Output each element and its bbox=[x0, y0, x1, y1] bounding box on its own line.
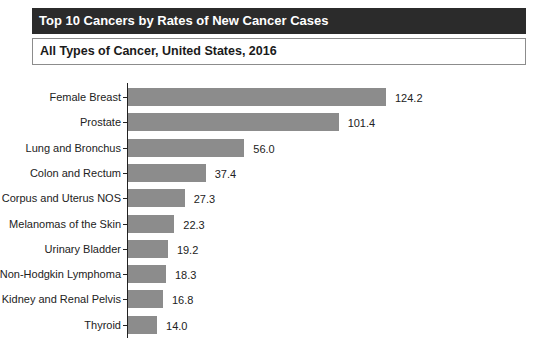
value-label: 27.3 bbox=[194, 190, 215, 208]
axis-tick bbox=[123, 198, 127, 199]
value-label: 19.2 bbox=[177, 241, 198, 259]
axis-tick bbox=[123, 122, 127, 123]
bar-row: Melanomas of the Skin22.3 bbox=[0, 215, 536, 233]
bar bbox=[128, 316, 157, 334]
axis-tick bbox=[123, 224, 127, 225]
category-label: Thyroid bbox=[84, 316, 121, 334]
value-label: 56.0 bbox=[253, 140, 274, 158]
bar-chart: Female Breast124.2Prostate101.4Lung and … bbox=[0, 0, 536, 339]
value-label: 16.8 bbox=[172, 291, 193, 309]
bar bbox=[128, 240, 168, 258]
value-label: 37.4 bbox=[215, 165, 236, 183]
axis-tick bbox=[123, 274, 127, 275]
bar-row: Non-Hodgkin Lymphoma18.3 bbox=[0, 265, 536, 283]
bar-row: Thyroid14.0 bbox=[0, 316, 536, 334]
category-label: Corpus and Uterus NOS bbox=[2, 189, 121, 207]
value-label: 22.3 bbox=[183, 216, 204, 234]
bar bbox=[128, 215, 174, 233]
axis-tick bbox=[123, 97, 127, 98]
bar-row: Kidney and Renal Pelvis16.8 bbox=[0, 290, 536, 308]
bar-row: Corpus and Uterus NOS27.3 bbox=[0, 189, 536, 207]
bar-row: Prostate101.4 bbox=[0, 113, 536, 131]
bar-row: Lung and Bronchus56.0 bbox=[0, 139, 536, 157]
category-label: Female Breast bbox=[49, 88, 121, 106]
category-label: Kidney and Renal Pelvis bbox=[2, 290, 121, 308]
bar bbox=[128, 113, 339, 131]
category-label: Non-Hodgkin Lymphoma bbox=[0, 265, 121, 283]
category-label: Colon and Rectum bbox=[30, 164, 121, 182]
category-label: Lung and Bronchus bbox=[26, 139, 121, 157]
bar-row: Female Breast124.2 bbox=[0, 88, 536, 106]
axis-tick bbox=[123, 299, 127, 300]
bar-row: Urinary Bladder19.2 bbox=[0, 240, 536, 258]
bar bbox=[128, 290, 163, 308]
axis-tick bbox=[123, 249, 127, 250]
axis-tick bbox=[123, 173, 127, 174]
axis-tick bbox=[123, 325, 127, 326]
value-label: 18.3 bbox=[175, 266, 196, 284]
bar bbox=[128, 164, 206, 182]
axis-tick bbox=[123, 148, 127, 149]
bar bbox=[128, 265, 166, 283]
value-label: 14.0 bbox=[166, 317, 187, 335]
bar bbox=[128, 139, 244, 157]
bar bbox=[128, 88, 386, 106]
bar bbox=[128, 189, 185, 207]
value-label: 124.2 bbox=[395, 89, 423, 107]
value-label: 101.4 bbox=[348, 114, 376, 132]
bar-row: Colon and Rectum37.4 bbox=[0, 164, 536, 182]
category-label: Melanomas of the Skin bbox=[9, 215, 121, 233]
category-label: Urinary Bladder bbox=[45, 240, 121, 258]
category-label: Prostate bbox=[80, 113, 121, 131]
